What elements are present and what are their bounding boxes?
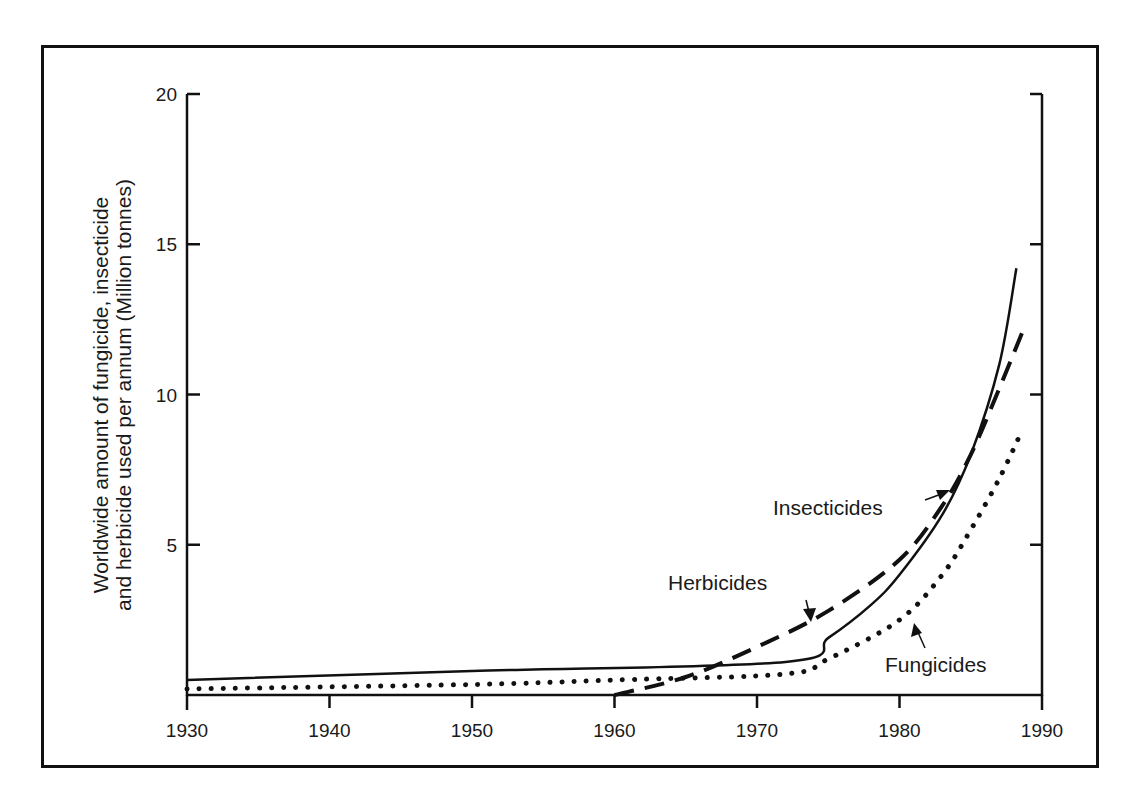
ticks — [187, 244, 1042, 710]
x-tick-label-1930: 1930 — [166, 720, 208, 741]
y-axis-title-line1: Worldwide amount of fungicide, insectici… — [89, 197, 112, 594]
arrow-herbicides — [803, 600, 816, 622]
label-insecticides: Insecticides — [773, 496, 883, 519]
y-tick-label-5: 5 — [166, 535, 177, 556]
line-chart: 19301940195019601970198019905101520 Worl… — [0, 0, 1142, 811]
y-axis-title-line2: and herbicide used per annum (Million to… — [112, 179, 135, 611]
tick-labels: 19301940195019601970198019905101520 — [156, 84, 1063, 741]
label-herbicides: Herbicides — [668, 571, 767, 594]
arrow-insecticides — [925, 490, 950, 500]
y-tick-label-15: 15 — [156, 234, 177, 255]
axes — [186, 94, 1043, 696]
label-fungicides: Fungicides — [885, 653, 987, 676]
y-tick-label-10: 10 — [156, 385, 177, 406]
x-tick-label-1940: 1940 — [308, 720, 350, 741]
arrow-fungicides — [911, 623, 925, 648]
x-tick-label-1960: 1960 — [593, 720, 635, 741]
series-insecticides-line — [187, 268, 1016, 680]
x-tick-label-1990: 1990 — [1021, 720, 1063, 741]
x-tick-label-1980: 1980 — [878, 720, 920, 741]
y-tick-label-20: 20 — [156, 84, 177, 105]
x-tick-label-1970: 1970 — [736, 720, 778, 741]
y-axis-title: Worldwide amount of fungicide, insectici… — [89, 179, 135, 611]
x-tick-label-1950: 1950 — [451, 720, 493, 741]
